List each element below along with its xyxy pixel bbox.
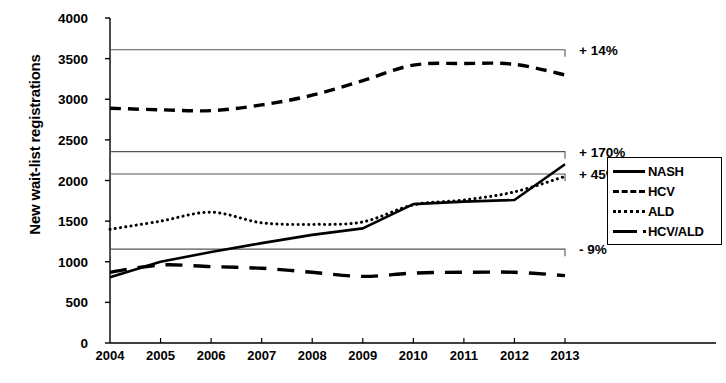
legend-swatch-solid-icon (612, 165, 646, 177)
legend-item: ALD (612, 201, 719, 221)
annotation-label: - 9% (579, 242, 607, 257)
legend-item: HCV/ALD (612, 221, 719, 241)
legend-item: HCV (612, 181, 719, 201)
annotation-bracket (110, 152, 565, 159)
annotation-label: + 14% (579, 42, 618, 57)
annotation-bracket (110, 249, 565, 256)
legend-label: NASH (648, 164, 684, 179)
legend-label: ALD (648, 204, 674, 219)
series-line-hcv-ald (110, 265, 565, 277)
series-line-ald (110, 176, 565, 229)
legend-item: NASH (612, 161, 719, 181)
legend-label: HCV (648, 184, 675, 199)
series-line-nash (110, 164, 565, 277)
annotation-bracket (110, 174, 565, 181)
legend-swatch-long-dash-icon (612, 225, 646, 237)
legend-swatch-dotted-icon (612, 205, 646, 217)
series-line-hcv (110, 63, 565, 111)
legend-swatch-dashed-icon (612, 185, 646, 197)
annotation-bracket (110, 50, 565, 57)
legend-label: HCV/ALD (648, 224, 704, 239)
legend: NASH HCV ALD HCV/ALD (607, 157, 722, 245)
chart-figure: New wait-list registrations 050010001500… (0, 0, 726, 383)
